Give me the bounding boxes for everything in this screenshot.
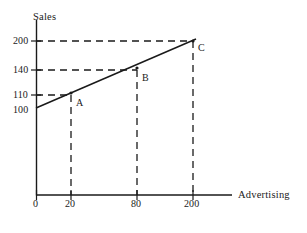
data-point-b-marker <box>135 66 138 69</box>
x-tick-label-80: 80 <box>131 199 141 209</box>
data-point-label-b: B <box>142 73 149 83</box>
y-axis-title: Sales <box>33 12 56 23</box>
x-tick-label-0: 0 <box>33 199 38 209</box>
data-point-label-a: A <box>76 98 83 108</box>
trend-line <box>36 39 196 108</box>
y-tick-label-110: 110 <box>13 90 28 100</box>
x-tick-label-20: 20 <box>65 199 75 209</box>
y-tick-label-140: 140 <box>13 65 28 75</box>
x-tick-label-200: 200 <box>184 199 199 209</box>
sales-advertising-chart: Sales Advertising 200 140 110 100 0 20 8… <box>0 0 307 233</box>
x-axis-title: Advertising <box>238 190 290 201</box>
y-tick-label-100: 100 <box>13 105 28 115</box>
data-point-a-marker <box>69 91 72 94</box>
y-tick-label-200: 200 <box>13 36 28 46</box>
data-point-label-c: C <box>198 43 205 53</box>
data-point-c-marker <box>191 39 194 42</box>
